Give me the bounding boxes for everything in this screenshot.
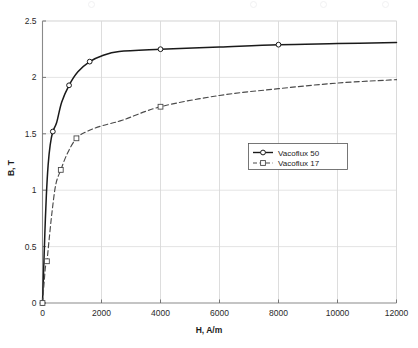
y-tick-label: 2.5 bbox=[25, 16, 37, 26]
data-point-marker bbox=[45, 259, 50, 264]
data-point-marker bbox=[40, 301, 45, 306]
data-point-marker bbox=[50, 129, 55, 134]
y-tick-label: 0.5 bbox=[25, 242, 37, 252]
data-point-marker bbox=[58, 167, 63, 172]
x-axis-ticks: 020004000600080001000012000 bbox=[40, 300, 408, 319]
x-tick-label: 12000 bbox=[385, 308, 409, 318]
x-tick-label: 4000 bbox=[151, 308, 170, 318]
magnetization-curve-chart: 020004000600080001000012000 00.511.522.5… bbox=[0, 0, 418, 348]
chart-plot-svg: 020004000600080001000012000 00.511.522.5… bbox=[0, 0, 418, 348]
chart-legend: Vacoflux 50 Vacoflux 17 bbox=[249, 144, 348, 170]
data-point-marker bbox=[158, 47, 163, 52]
x-tick-label: 0 bbox=[40, 308, 45, 318]
data-point-marker bbox=[87, 59, 92, 64]
y-tick-label: 2 bbox=[32, 72, 37, 82]
data-point-marker bbox=[276, 42, 281, 47]
x-tick-label: 6000 bbox=[210, 308, 229, 318]
legend-square-icon bbox=[261, 161, 266, 166]
x-axis-title: H, A/m bbox=[196, 325, 223, 335]
data-point-marker bbox=[158, 104, 163, 109]
y-tick-label: 0 bbox=[32, 298, 37, 308]
y-tick-label: 1.5 bbox=[25, 129, 37, 139]
y-axis-title: B, T bbox=[6, 159, 16, 176]
x-tick-label: 10000 bbox=[326, 308, 350, 318]
data-point-marker bbox=[74, 136, 79, 141]
data-point-marker bbox=[67, 83, 72, 88]
legend-circle-icon bbox=[261, 150, 266, 155]
y-tick-label: 1 bbox=[32, 185, 37, 195]
legend-label-vacoflux-17: Vacoflux 17 bbox=[278, 159, 320, 168]
x-tick-label: 2000 bbox=[92, 308, 111, 318]
x-tick-label: 8000 bbox=[269, 308, 288, 318]
legend-label-vacoflux-50: Vacoflux 50 bbox=[278, 149, 320, 158]
